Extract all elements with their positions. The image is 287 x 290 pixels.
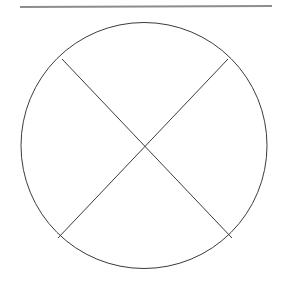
line-drawing-figure: [0, 0, 287, 290]
chord-northeast-southwest: [58, 59, 228, 238]
figure-canvas: [0, 0, 287, 290]
horizontal-rule: [20, 6, 272, 7]
chord-northwest-southeast: [62, 59, 232, 238]
